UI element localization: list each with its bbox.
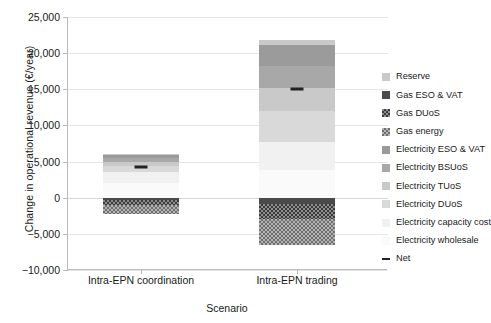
bar-segment[interactable] xyxy=(103,205,179,214)
chart-legend: ReserveGas ESO & VATGas DUoSGas energyEl… xyxy=(382,68,489,268)
x-axis-tick-label: Intra-EPN coordination xyxy=(88,274,194,286)
bar-stack[interactable] xyxy=(259,17,335,270)
legend-item[interactable]: Electricity ESO & VAT xyxy=(382,141,489,159)
legend-item[interactable]: Reserve xyxy=(382,68,489,86)
bar-segment[interactable] xyxy=(103,172,179,183)
y-axis-tick-mark xyxy=(63,234,68,235)
y-axis-tick-mark xyxy=(63,89,68,90)
bar-segment[interactable] xyxy=(103,155,179,158)
legend-item-label: Electricity TUoS xyxy=(396,182,461,191)
legend-swatch-icon xyxy=(382,164,390,172)
legend-item-label: Gas energy xyxy=(396,127,444,136)
legend-item-label: Gas ESO & VAT xyxy=(396,91,463,100)
legend-swatch-icon xyxy=(382,109,390,117)
legend-item[interactable]: Net xyxy=(382,250,489,268)
y-axis-tick-mark xyxy=(63,125,68,126)
bar-segment[interactable] xyxy=(259,142,335,169)
bar-segment[interactable] xyxy=(259,219,335,245)
net-marker xyxy=(135,166,148,169)
legend-swatch-icon xyxy=(382,146,390,154)
legend-swatch-icon xyxy=(382,73,390,81)
y-axis-tick-label: 15,000 xyxy=(28,83,60,95)
legend-item[interactable]: Gas energy xyxy=(382,123,489,141)
y-axis-tick-label: 25,000 xyxy=(28,11,60,23)
legend-swatch-icon xyxy=(382,91,390,99)
legend-item[interactable]: Electricity BSUoS xyxy=(382,159,489,177)
gridline xyxy=(68,270,388,271)
y-axis-tick-label: −10,000 xyxy=(22,264,60,276)
y-axis-tick-label: 10,000 xyxy=(28,119,60,131)
legend-item-label: Electricity capacity cost xyxy=(396,218,491,227)
y-axis-tick-label: −5,000 xyxy=(28,228,60,240)
y-axis-tick-label: 20,000 xyxy=(28,47,60,59)
y-axis-tick-mark xyxy=(63,270,68,271)
bar-segment[interactable] xyxy=(259,45,335,66)
bar-segment[interactable] xyxy=(259,111,335,142)
legend-item[interactable]: Electricity capacity cost xyxy=(382,214,489,232)
legend-item-label: Net xyxy=(396,254,410,263)
bar-segment[interactable] xyxy=(259,66,335,88)
y-axis-tick-label: 5,000 xyxy=(34,156,60,168)
legend-item[interactable]: Gas DUoS xyxy=(382,104,489,122)
bar-segment[interactable] xyxy=(103,154,179,155)
net-marker xyxy=(291,88,304,91)
legend-swatch-icon xyxy=(382,237,390,245)
legend-item-label: Electricity wholesale xyxy=(396,236,479,245)
x-axis-tick-label: Intra-EPN trading xyxy=(256,274,337,286)
y-axis-tick-mark xyxy=(63,198,68,199)
bar-segment[interactable] xyxy=(103,183,179,198)
bar-stack[interactable] xyxy=(103,17,179,270)
y-axis-tick-mark xyxy=(63,162,68,163)
bar-segment[interactable] xyxy=(259,170,335,198)
legend-swatch-icon xyxy=(382,258,390,260)
x-axis-title: Scenario xyxy=(67,302,387,314)
legend-swatch-icon xyxy=(382,128,390,136)
y-axis-tick-mark xyxy=(63,17,68,18)
bar-segment[interactable] xyxy=(103,158,179,161)
legend-item[interactable]: Electricity wholesale xyxy=(382,232,489,250)
y-axis-tick-mark xyxy=(63,53,68,54)
bar-segment[interactable] xyxy=(259,40,335,45)
bar-segment[interactable] xyxy=(259,198,335,205)
y-axis-tick-label: 0 xyxy=(54,192,60,204)
legend-swatch-icon xyxy=(382,200,390,208)
legend-swatch-icon xyxy=(382,182,390,190)
x-axis-tick-mark xyxy=(297,270,298,274)
legend-item-label: Electricity BSUoS xyxy=(396,163,468,172)
legend-item[interactable]: Electricity DUoS xyxy=(382,195,489,213)
plot-area: −10,000−5,00005,00010,00015,00020,00025,… xyxy=(67,17,387,270)
x-axis-tick-mark xyxy=(141,270,142,274)
legend-item-label: Electricity DUoS xyxy=(396,200,462,209)
legend-item-label: Electricity ESO & VAT xyxy=(396,145,485,154)
bar-segment[interactable] xyxy=(259,88,335,111)
bar-segment[interactable] xyxy=(259,204,335,219)
legend-item[interactable]: Electricity TUoS xyxy=(382,177,489,195)
legend-item[interactable]: Gas ESO & VAT xyxy=(382,86,489,104)
legend-swatch-icon xyxy=(382,219,390,227)
legend-item-label: Reserve xyxy=(396,72,430,81)
legend-item-label: Gas DUoS xyxy=(396,109,440,118)
